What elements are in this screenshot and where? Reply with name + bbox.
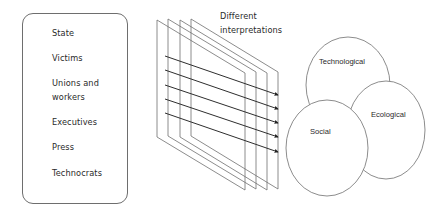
planes-caption: Different interpretations [220, 9, 282, 37]
label-social: Social [310, 127, 331, 136]
arrow-4 [165, 99, 278, 137]
arrow-5 [165, 113, 278, 152]
interpretation-planes [157, 19, 278, 190]
caption-line-1: Different [220, 9, 282, 23]
perspective-arrows [165, 56, 278, 152]
arrow-3 [165, 85, 278, 123]
plane-1 [157, 20, 245, 190]
label-technological: Technological [319, 57, 365, 66]
social-ellipse [286, 100, 368, 196]
label-ecological: Ecological [371, 110, 406, 119]
caption-line-2: interpretations [220, 23, 282, 37]
